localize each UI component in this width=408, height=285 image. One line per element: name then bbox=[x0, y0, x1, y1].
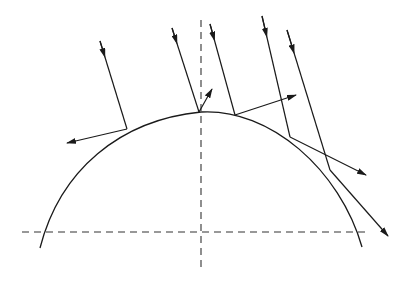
reflected-ray-4 bbox=[290, 137, 366, 175]
arrow-icon bbox=[262, 16, 266, 33]
reflected-ray-3 bbox=[235, 95, 296, 115]
arrow-icon bbox=[100, 41, 104, 53]
incident-ray-4 bbox=[262, 16, 290, 137]
arrow-icon bbox=[172, 28, 176, 40]
arrow-icon bbox=[287, 30, 293, 50]
arrow-icon bbox=[210, 24, 214, 37]
incident-ray-3 bbox=[210, 24, 235, 115]
rays-group bbox=[67, 16, 388, 236]
incident-ray-5 bbox=[287, 30, 330, 170]
reflected-ray-1 bbox=[67, 129, 127, 143]
incident-ray-2 bbox=[172, 28, 199, 112]
reflected-ray-5 bbox=[330, 170, 388, 236]
ray-reflection-diagram bbox=[0, 0, 408, 285]
incident-ray-1 bbox=[100, 41, 127, 129]
